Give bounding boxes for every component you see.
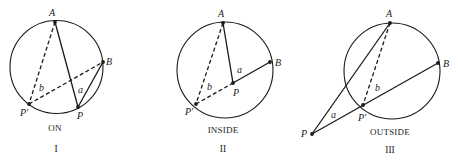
point-a: [53, 20, 57, 24]
figure-svg: A B P P′ b a ON I A B P P′ b a INSIDE II: [0, 0, 458, 163]
caption-outside: OUTSIDE: [370, 127, 410, 137]
panel-inside: A B P P′ b a INSIDE II: [177, 8, 281, 154]
segment-pb: [312, 63, 438, 134]
point-p-prime: [194, 102, 198, 106]
point-a: [221, 21, 225, 25]
label-p-prime: P′: [19, 107, 29, 118]
caption-inside: INSIDE: [208, 125, 239, 135]
point-a: [388, 21, 392, 25]
label-p: P: [300, 128, 307, 139]
segment-label-b: b: [39, 82, 44, 93]
segment-label-b: b: [375, 82, 380, 93]
point-p: [231, 81, 235, 85]
segment-label-a: a: [237, 64, 242, 75]
segment-label-a: a: [331, 109, 336, 120]
label-a: A: [217, 8, 225, 19]
point-p: [76, 105, 80, 109]
panel-outside: A B P P′ b a OUTSIDE III: [300, 8, 449, 155]
point-b: [436, 61, 440, 65]
point-p: [310, 132, 314, 136]
label-p-prime: P′: [357, 112, 367, 123]
label-b: B: [443, 58, 449, 69]
segment-ap: [223, 23, 233, 83]
numeral-iii: III: [385, 145, 395, 155]
figure-canvas: A B P P′ b a ON I A B P P′ b a INSIDE II: [0, 0, 458, 163]
circle-outside: [344, 23, 440, 119]
circle-on: [10, 21, 103, 114]
point-b: [268, 60, 272, 64]
label-p: P: [232, 87, 239, 98]
caption-on: ON: [48, 123, 62, 133]
label-a: A: [385, 8, 393, 19]
segment-label-a: a: [78, 84, 83, 95]
point-p-prime: [27, 102, 31, 106]
numeral-i: I: [54, 144, 57, 154]
label-b: B: [106, 56, 112, 67]
label-a: A: [48, 7, 56, 18]
label-p: P: [76, 110, 83, 121]
point-b: [101, 60, 105, 64]
point-p-prime: [361, 103, 365, 107]
label-p-prime: P′: [184, 106, 194, 117]
panel-on: A B P P′ b a ON I: [10, 7, 112, 154]
segment-ap: [55, 22, 78, 107]
numeral-ii: II: [220, 144, 226, 154]
label-b: B: [275, 57, 281, 68]
segment-label-b: b: [207, 81, 212, 92]
